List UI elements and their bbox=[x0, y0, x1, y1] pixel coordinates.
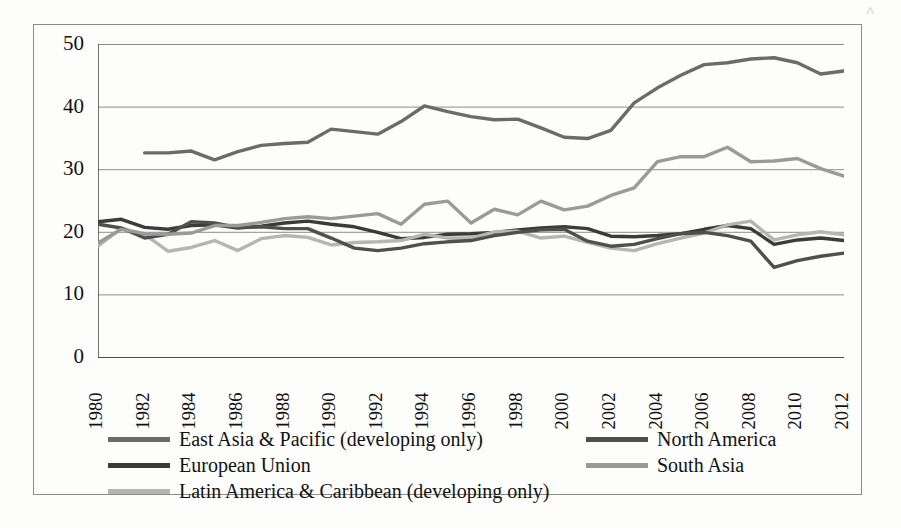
scan-artifact-mark: ˄ bbox=[866, 2, 874, 19]
chart-svg bbox=[98, 44, 844, 358]
x-axis-tick-label: 1994 bbox=[413, 392, 432, 429]
legend-label: East Asia & Pacific (developing only) bbox=[179, 429, 483, 449]
legend-color-swatch bbox=[108, 437, 170, 442]
legend-item[interactable]: South Asia bbox=[586, 455, 744, 475]
legend-item[interactable]: East Asia & Pacific (developing only) bbox=[108, 429, 483, 449]
x-axis-tick-label: 2010 bbox=[786, 392, 805, 429]
x-axis-tick-label: 2012 bbox=[833, 392, 852, 429]
legend-item[interactable]: North America bbox=[586, 429, 776, 449]
chart-legend: East Asia & Pacific (developing only)Eur… bbox=[34, 429, 863, 491]
legend-label: North America bbox=[657, 429, 776, 449]
legend-label: Latin America & Caribbean (developing on… bbox=[179, 481, 549, 501]
x-axis-tick-label: 1990 bbox=[320, 392, 339, 429]
y-axis-tick-label: 10 bbox=[38, 283, 84, 304]
x-axis-tick-label: 1986 bbox=[226, 392, 245, 429]
legend-color-swatch bbox=[586, 437, 648, 442]
y-axis-tick-label: 50 bbox=[38, 33, 84, 54]
x-axis-tick-label: 1992 bbox=[366, 392, 385, 429]
y-axis-tick-label: 30 bbox=[38, 158, 84, 179]
legend-item[interactable]: European Union bbox=[108, 455, 311, 475]
series-line-0 bbox=[145, 58, 844, 160]
x-axis-tick-label: 2008 bbox=[739, 392, 758, 429]
x-axis-tick-labels: 1980198219841986198819901992199419961998… bbox=[98, 363, 844, 429]
x-axis-tick-label: 1984 bbox=[180, 392, 199, 429]
legend-label: European Union bbox=[179, 455, 311, 475]
chart-figure: 01020304050 1980198219841986198819901992… bbox=[33, 24, 862, 495]
plot-wrapper bbox=[98, 44, 844, 357]
x-axis-tick-label: 2004 bbox=[646, 392, 665, 429]
x-axis-tick-label: 2002 bbox=[599, 392, 618, 429]
y-axis-tick-label: 40 bbox=[38, 96, 84, 117]
plot-area bbox=[98, 44, 844, 357]
x-axis-tick-label: 1998 bbox=[506, 392, 525, 429]
legend-color-swatch bbox=[586, 463, 648, 468]
x-axis-tick-label: 2006 bbox=[693, 392, 712, 429]
legend-item[interactable]: Latin America & Caribbean (developing on… bbox=[108, 481, 549, 501]
legend-label: South Asia bbox=[657, 455, 744, 475]
x-axis-tick-label: 2000 bbox=[553, 392, 572, 429]
x-axis-tick-label: 1980 bbox=[87, 392, 106, 429]
y-axis-tick-label: 0 bbox=[38, 346, 84, 367]
x-axis-tick-label: 1996 bbox=[460, 392, 479, 429]
legend-color-swatch bbox=[108, 463, 170, 468]
x-axis-tick-label: 1988 bbox=[273, 392, 292, 429]
x-axis-tick-label: 1982 bbox=[133, 392, 152, 429]
y-axis-tick-label: 20 bbox=[38, 221, 84, 242]
series-line-4 bbox=[98, 147, 844, 243]
legend-color-swatch bbox=[108, 489, 170, 494]
